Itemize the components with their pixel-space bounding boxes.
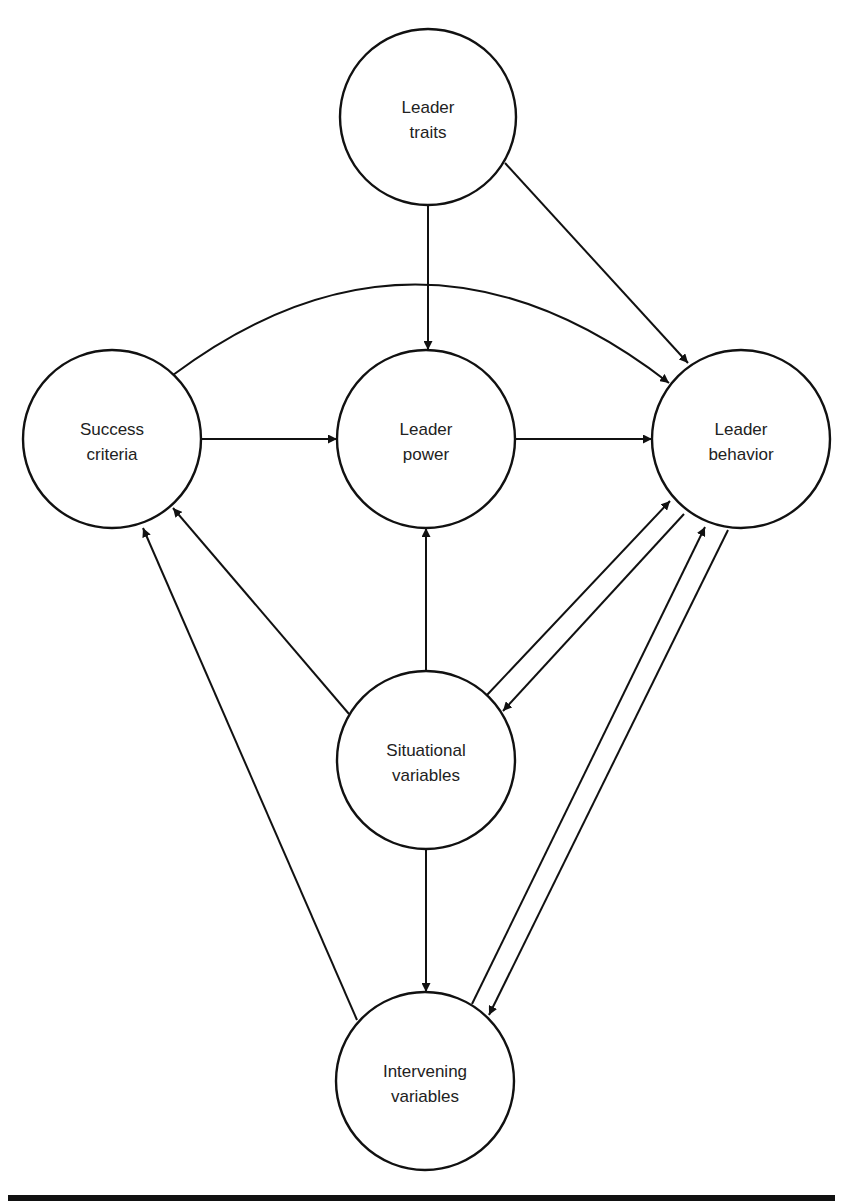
node-label-line2: criteria — [86, 445, 138, 464]
arrow-leader-behavior-to-intervening-variables — [489, 530, 728, 1015]
node-label-line2: traits — [410, 123, 447, 142]
node-label-line1: Leader — [402, 98, 455, 117]
node-circle — [340, 29, 516, 205]
bottom-rule — [8, 1195, 835, 1201]
node-circle — [337, 671, 515, 849]
node-label-line2: power — [403, 445, 450, 464]
arrow-situational-variables-to-leader-behavior — [487, 501, 670, 695]
arrow-leader-behavior-to-situational-variables — [503, 514, 684, 711]
node-intervening-variables: Interveningvariables — [336, 992, 514, 1170]
node-circle — [336, 992, 514, 1170]
node-circle — [337, 350, 515, 528]
node-label-line1: Intervening — [383, 1062, 467, 1081]
node-circle — [23, 350, 201, 528]
node-success-criteria: Successcriteria — [23, 350, 201, 528]
node-circle — [652, 350, 830, 528]
arrow-intervening-variables-to-success-criteria — [143, 528, 357, 1020]
node-leader-power: Leaderpower — [337, 350, 515, 528]
arrow-leader-traits-to-leader-behavior — [505, 163, 688, 363]
node-situational-variables: Situationalvariables — [337, 671, 515, 849]
node-label-line1: Leader — [715, 420, 768, 439]
arrow-situational-variables-to-success-criteria — [173, 508, 349, 714]
node-label-line1: Leader — [400, 420, 453, 439]
node-leader-traits: Leadertraits — [340, 29, 516, 205]
node-label-line2: variables — [391, 1087, 459, 1106]
node-label-line1: Situational — [386, 741, 465, 760]
node-label-line2: behavior — [708, 445, 774, 464]
edges-layer — [143, 163, 728, 1020]
node-label-line1: Success — [80, 420, 144, 439]
node-label-line2: variables — [392, 766, 460, 785]
node-leader-behavior: Leaderbehavior — [652, 350, 830, 528]
